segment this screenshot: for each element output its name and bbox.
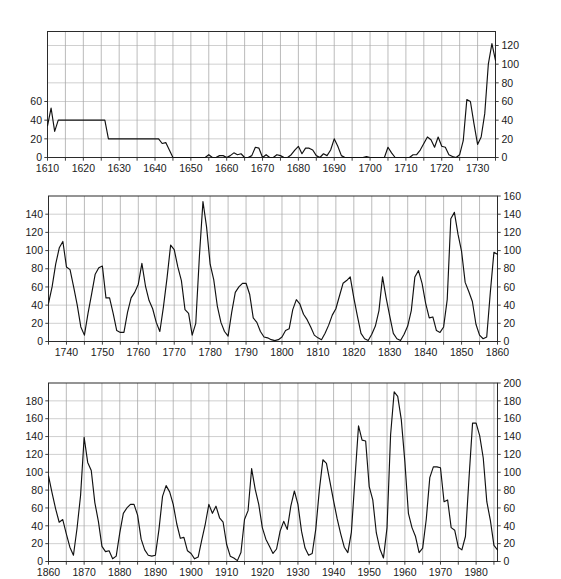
x-axis: 1740175017601770178017901800181018201830…	[49, 342, 510, 359]
y-tick-label-left: 60	[30, 95, 42, 107]
y-tick-label-right: 120	[502, 39, 520, 51]
y-tick-label-right: 0	[504, 555, 510, 567]
y-tick-label-left: 140	[25, 208, 43, 220]
x-tick-label: 1930	[286, 566, 310, 578]
x-tick-label: 1760	[127, 346, 151, 358]
y-tick-label-right: 100	[504, 466, 522, 478]
y-tick-label-right: 20	[504, 537, 516, 549]
y-tick-label-left: 100	[25, 466, 43, 478]
x-tick-label: 1640	[143, 162, 167, 174]
x-tick-label: 1700	[358, 162, 382, 174]
x-tick-label: 1820	[342, 346, 366, 358]
y-tick-label-right: 200	[504, 377, 522, 389]
y-tick-label-left: 60	[31, 281, 43, 293]
y-tick-label-right: 0	[504, 335, 510, 347]
y-tick-label-right: 0	[502, 151, 508, 163]
y-tick-label-right: 160	[504, 412, 522, 424]
x-tick-label: 1780	[198, 346, 222, 358]
x-tick-label: 1670	[251, 162, 275, 174]
y-tick-label-right: 40	[504, 520, 516, 532]
y-tick-label-right: 40	[502, 114, 514, 126]
y-tick-label-right: 160	[504, 190, 522, 202]
y-tick-label-right: 120	[504, 226, 522, 238]
y-tick-label-left: 80	[31, 484, 43, 496]
x-tick-label: 1860	[486, 346, 510, 358]
y-tick-label-left: 140	[25, 430, 43, 442]
y-tick-label-left: 120	[25, 226, 43, 238]
x-tick-label: 1940	[322, 566, 346, 578]
x-tick-label: 1910	[215, 566, 239, 578]
y-tick-label-right: 140	[504, 430, 522, 442]
y-axis-right: 020406080100120140160	[498, 190, 522, 348]
x-tick-label: 1740	[55, 346, 79, 358]
y-axis-left: 0204060	[30, 95, 47, 163]
y-axis-left: 020406080100120140160180	[25, 395, 48, 568]
y-tick-label-right: 60	[502, 95, 514, 107]
x-tick-label: 1610	[36, 162, 60, 174]
y-tick-label-right: 40	[504, 299, 516, 311]
x-tick-label: 1970	[429, 566, 453, 578]
x-tick-label: 1710	[394, 162, 418, 174]
y-tick-label-left: 20	[31, 317, 43, 329]
y-axis-left: 020406080100120140	[25, 208, 48, 347]
x-tick-label: 1810	[306, 346, 330, 358]
y-tick-label-left: 40	[31, 520, 43, 532]
y-axis-right: 020406080100120	[496, 39, 520, 163]
x-tick-label: 1720	[430, 162, 454, 174]
x-tick-label: 1980	[464, 566, 488, 578]
y-tick-label-left: 60	[31, 502, 43, 514]
x-tick-label: 1840	[414, 346, 438, 358]
y-tick-label-right: 80	[504, 484, 516, 496]
x-axis: 1610162016301640165016601670168016901700…	[36, 158, 496, 175]
x-tick-label: 1830	[378, 346, 402, 358]
x-tick-label: 1880	[108, 566, 132, 578]
x-tick-label: 1860	[37, 566, 61, 578]
x-tick-label: 1900	[179, 566, 203, 578]
y-tick-label-left: 0	[36, 151, 42, 163]
y-tick-label-left: 160	[25, 412, 43, 424]
y-tick-label-right: 60	[504, 502, 516, 514]
x-tick-label: 1770	[163, 346, 187, 358]
x-tick-label: 1890	[144, 566, 168, 578]
y-tick-label-right: 140	[504, 208, 522, 220]
panel-1-svg: 1610162016301640165016601670168016901700…	[0, 0, 561, 186]
panel-2-svg: 1740175017601770178017901800181018201830…	[0, 186, 561, 372]
chart-panel-1610-1735: 1610162016301640165016601670168016901700…	[0, 0, 561, 186]
panel-3-svg: 1860187018801890190019101920193019401950…	[0, 372, 561, 579]
x-tick-label: 1750	[91, 346, 115, 358]
chart-panel-1860-1986: 1860187018801890190019101920193019401950…	[0, 372, 561, 579]
y-tick-label-right: 120	[504, 448, 522, 460]
y-tick-label-left: 100	[25, 244, 43, 256]
y-tick-label-right: 20	[504, 317, 516, 329]
x-tick-label: 1680	[287, 162, 311, 174]
y-tick-label-left: 120	[25, 448, 43, 460]
x-tick-label: 1960	[393, 566, 417, 578]
y-tick-label-right: 100	[504, 244, 522, 256]
x-tick-label: 1650	[179, 162, 203, 174]
x-tick-label: 1870	[72, 566, 96, 578]
y-tick-label-left: 20	[31, 537, 43, 549]
y-tick-label-right: 100	[502, 58, 520, 70]
x-tick-label: 1800	[270, 346, 294, 358]
y-tick-label-left: 40	[31, 299, 43, 311]
x-axis: 1860187018801890190019101920193019401950…	[37, 562, 494, 579]
y-tick-label-left: 0	[37, 335, 43, 347]
y-tick-label-left: 0	[37, 555, 43, 567]
y-tick-label-left: 40	[30, 114, 42, 126]
y-tick-label-left: 80	[31, 262, 43, 274]
y-tick-label-right: 60	[504, 281, 516, 293]
y-tick-label-right: 20	[502, 133, 514, 145]
sunspot-number-figure: 1610162016301640165016601670168016901700…	[0, 0, 561, 579]
y-axis-right: 020406080100120140160180200	[498, 377, 522, 568]
y-tick-label-right: 180	[504, 395, 522, 407]
x-tick-label: 1620	[72, 162, 96, 174]
y-tick-label-left: 180	[25, 395, 43, 407]
x-tick-label: 1850	[450, 346, 474, 358]
x-tick-label: 1630	[108, 162, 132, 174]
x-tick-label: 1920	[251, 566, 275, 578]
y-tick-label-right: 80	[504, 262, 516, 274]
x-tick-label: 1730	[466, 162, 490, 174]
x-tick-label: 1950	[358, 566, 382, 578]
chart-panel-1735-1860: 1740175017601770178017901800181018201830…	[0, 186, 561, 372]
y-tick-label-right: 80	[502, 77, 514, 89]
